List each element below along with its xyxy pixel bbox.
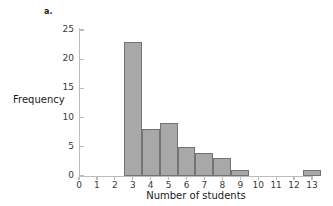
histogram-bar xyxy=(160,123,178,176)
y-tick-label: 5 xyxy=(14,142,79,151)
y-tick-mark xyxy=(80,146,84,147)
y-tick-label: 0 xyxy=(14,171,79,180)
y-tick-mark xyxy=(80,59,84,60)
y-tick-label: 10 xyxy=(14,113,79,122)
histogram-bar xyxy=(178,147,196,176)
x-axis-title: Number of students xyxy=(79,190,313,202)
histogram-bar xyxy=(142,129,160,176)
y-tick-mark xyxy=(80,88,84,89)
y-tick-label: 20 xyxy=(14,54,79,63)
y-axis-line xyxy=(79,28,80,177)
x-tick-label: 13 xyxy=(302,180,322,190)
y-tick-mark xyxy=(80,117,84,118)
y-tick-label: 25 xyxy=(14,25,79,34)
histogram-bar xyxy=(213,158,231,176)
histogram-bar xyxy=(195,153,213,176)
plot-area: 0510152025 012345678910111213 Frequency … xyxy=(0,0,333,206)
histogram-bar xyxy=(303,170,321,176)
histogram-bar xyxy=(124,42,142,176)
y-tick-mark xyxy=(80,29,84,30)
y-axis-title: Frequency xyxy=(13,94,65,106)
y-tick-label: 15 xyxy=(14,83,79,92)
histogram-bar xyxy=(231,170,249,176)
histogram-figure: a. 0510152025 012345678910111213 Frequen… xyxy=(0,0,333,206)
y-tick-mark xyxy=(80,175,84,176)
